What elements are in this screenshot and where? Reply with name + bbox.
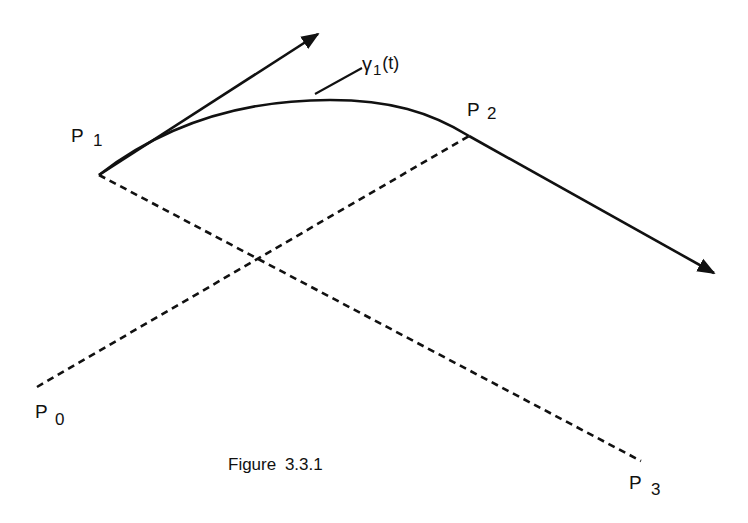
label-p1: P 1 [71, 126, 84, 145]
label-p0-sub: 0 [55, 411, 64, 428]
label-p1-sub: 1 [93, 132, 102, 149]
diagram-svg [0, 0, 748, 523]
curve-subscript: 1 [373, 61, 381, 78]
figure-caption: Figure 3.3.1 [228, 456, 323, 473]
label-p1-letter: P [71, 125, 84, 146]
label-p0: P 0 [35, 402, 48, 421]
label-p3: P 3 [629, 473, 642, 492]
curve-gamma1 [99, 100, 469, 175]
figure-canvas: P 1 P 2 P 0 P 3 γ1(t) Figure 3.3.1 [0, 0, 748, 523]
tangent-arrow-p2 [469, 136, 714, 273]
curve-label-leader [315, 68, 362, 94]
curve-symbol: γ [362, 53, 372, 75]
label-p0-letter: P [35, 401, 48, 422]
label-p3-letter: P [629, 472, 642, 493]
label-p2-letter: P [467, 99, 480, 120]
label-p2-sub: 2 [487, 105, 496, 122]
label-p3-sub: 3 [651, 481, 660, 498]
label-curve-gamma: γ1(t) [362, 54, 399, 74]
label-p2: P 2 [467, 100, 480, 119]
curve-argument: (t) [382, 53, 399, 73]
dashed-line-p1-p3 [99, 175, 641, 461]
